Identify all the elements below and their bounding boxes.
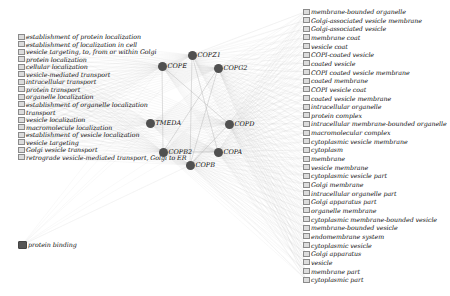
term-node[interactable]: Golgi-associated vesicle membrane: [303, 17, 422, 24]
term-label: cytoplasmic part: [311, 276, 363, 283]
term-node[interactable]: intracellular organelle part: [303, 190, 397, 197]
term-node[interactable]: cytoplasmic membrane-bounded vesicle: [303, 216, 437, 223]
term-node-protein-binding[interactable]: protein binding: [18, 241, 77, 248]
term-box-icon: [303, 78, 310, 84]
term-node[interactable]: vesicle coat: [303, 43, 348, 50]
term-label: cytoplasmic vesicle: [311, 242, 372, 249]
term-box-icon: [303, 225, 310, 231]
term-node[interactable]: vesicle targeting: [18, 139, 79, 146]
term-label: intracellular organelle part: [311, 190, 397, 197]
term-node[interactable]: cellular localization: [18, 63, 88, 70]
term-node[interactable]: establishment of organelle localization: [18, 101, 148, 108]
gene-dot-icon: [146, 119, 155, 128]
term-node[interactable]: organelle membrane: [303, 207, 376, 214]
term-node[interactable]: Golgi apparatus: [303, 250, 361, 257]
term-node[interactable]: cytoplasmic part: [303, 276, 363, 283]
term-box-icon: [303, 233, 310, 239]
term-box-icon: [18, 79, 25, 85]
gene-node[interactable]: COPZ1: [188, 51, 221, 60]
term-box-icon: [18, 139, 25, 145]
term-node[interactable]: Golgi vesicle transport: [18, 146, 97, 153]
term-node[interactable]: cytoplasm: [303, 146, 343, 153]
term-node[interactable]: membrane coat: [303, 34, 360, 41]
term-node[interactable]: vesicle: [303, 259, 332, 266]
term-node[interactable]: coated membrane: [303, 77, 368, 84]
term-node[interactable]: vesicle targeting, to, from or within Go…: [18, 48, 157, 55]
term-box-icon: [303, 164, 310, 170]
term-node[interactable]: membrane part: [303, 268, 360, 275]
term-node[interactable]: vesicle-mediated transport: [18, 71, 110, 78]
term-label: cytoplasmic vesicle part: [311, 172, 387, 179]
term-label: Golgi membrane: [311, 181, 363, 188]
term-node[interactable]: establishment of protein localization: [18, 33, 141, 40]
term-box-icon: [303, 34, 310, 40]
term-node[interactable]: intracellular transport: [18, 78, 96, 85]
gene-dot-icon: [214, 64, 223, 73]
term-label: macromolecular complex: [311, 129, 390, 136]
term-label: COPI coated vesicle membrane: [311, 69, 410, 76]
term-label: establishment of localization in cell: [26, 41, 137, 48]
term-node[interactable]: transport: [18, 109, 56, 116]
term-box-icon: [303, 173, 310, 179]
term-box-icon: [18, 241, 27, 249]
term-node[interactable]: intracellular organelle: [303, 103, 381, 110]
term-label: macromolecule localization: [26, 124, 112, 131]
gene-node[interactable]: COPA: [214, 148, 243, 157]
term-node[interactable]: protein complex: [303, 112, 362, 119]
term-node[interactable]: membrane-bounded organelle: [303, 8, 406, 15]
term-node[interactable]: Golgi apparatus part: [303, 198, 376, 205]
term-box-icon: [18, 101, 25, 107]
term-label: vesicle targeting, to, from or within Go…: [26, 48, 157, 55]
term-node[interactable]: vesicle localization: [18, 116, 85, 123]
gene-label: TMEDA: [156, 119, 182, 127]
term-node[interactable]: macromolecular complex: [303, 129, 390, 136]
term-label: Golgi-associated vesicle membrane: [311, 17, 422, 24]
term-box-icon: [303, 242, 310, 248]
term-node[interactable]: macromolecule localization: [18, 124, 112, 131]
term-node[interactable]: cytoplasmic vesicle membrane: [303, 138, 408, 145]
term-label: vesicle localization: [26, 116, 85, 123]
gene-node[interactable]: TMEDA: [146, 119, 182, 128]
gene-label: COPE: [168, 62, 187, 70]
term-node[interactable]: establishment of localization in cell: [18, 41, 137, 48]
term-node[interactable]: protein transport: [18, 86, 80, 93]
gene-node[interactable]: COPG2: [214, 64, 248, 73]
term-box-icon: [303, 130, 310, 136]
term-node[interactable]: organelle localization: [18, 93, 94, 100]
term-label: cytoplasmic vesicle membrane: [311, 138, 408, 145]
term-node[interactable]: membrane: [303, 155, 345, 162]
term-label: protein transport: [26, 86, 80, 93]
term-node[interactable]: Golgi-associated vesicle: [303, 25, 386, 32]
term-box-icon: [303, 52, 310, 58]
term-node[interactable]: COPI-coated vesicle: [303, 51, 374, 58]
term-label: Golgi vesicle transport: [26, 146, 97, 153]
term-box-icon: [303, 86, 310, 92]
term-label: establishment of vesicle localization: [26, 131, 140, 138]
term-box-icon: [303, 69, 310, 75]
term-node[interactable]: membrane-bounded vesicle: [303, 224, 398, 231]
term-label: Golgi-associated vesicle: [311, 25, 386, 32]
term-node[interactable]: cytoplasmic vesicle part: [303, 172, 387, 179]
term-node[interactable]: intracellular membrane-bounded organelle: [303, 120, 447, 127]
term-node[interactable]: cytoplasmic vesicle: [303, 242, 372, 249]
term-node[interactable]: Golgi membrane: [303, 181, 363, 188]
term-box-icon: [303, 277, 310, 283]
term-node[interactable]: vesicle membrane: [303, 164, 368, 171]
term-box-icon: [18, 49, 25, 55]
term-node[interactable]: COPI vesicle coat: [303, 86, 366, 93]
gene-node[interactable]: COPB2: [159, 148, 193, 157]
term-box-icon: [303, 60, 310, 66]
gene-node[interactable]: COPD: [225, 120, 255, 129]
term-label: Golgi apparatus part: [311, 198, 376, 205]
term-node[interactable]: coated vesicle membrane: [303, 95, 391, 102]
gene-node[interactable]: COPB: [186, 161, 215, 170]
term-label: coated vesicle: [311, 60, 355, 67]
term-node[interactable]: coated vesicle: [303, 60, 355, 67]
term-node[interactable]: COPI coated vesicle membrane: [303, 69, 410, 76]
term-node[interactable]: endomembrane system: [303, 233, 384, 240]
term-label: vesicle membrane: [311, 164, 368, 171]
term-box-icon: [303, 121, 310, 127]
term-node[interactable]: protein localization: [18, 56, 87, 63]
term-node[interactable]: establishment of vesicle localization: [18, 131, 140, 138]
gene-node[interactable]: COPE: [158, 62, 187, 71]
